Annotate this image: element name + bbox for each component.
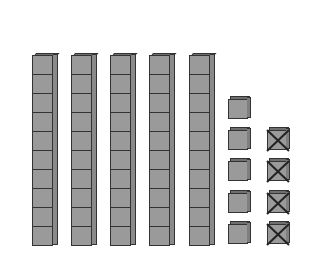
rod-unit-cube — [110, 131, 131, 151]
rod-unit-cube — [189, 169, 210, 189]
rod-unit-cube — [110, 207, 131, 227]
rod-unit-cube — [71, 131, 92, 151]
rod-unit-cube — [189, 131, 210, 151]
rod-unit-cube — [71, 169, 92, 189]
rod-unit-cube — [71, 150, 92, 170]
crossed-out-ones-cube — [267, 190, 287, 210]
rod-unit-cube — [110, 169, 131, 189]
tens-rod — [189, 56, 211, 246]
rod-unit-cube — [71, 226, 92, 246]
rod-unit-cube — [71, 188, 92, 208]
cube-side-face — [247, 159, 251, 180]
rod-unit-cube — [71, 93, 92, 113]
rod-unit-cube — [149, 131, 170, 151]
cube-front-face — [228, 161, 248, 181]
cube-front-face — [228, 193, 248, 213]
rod-unit-cube — [189, 93, 210, 113]
rod-unit-cube — [32, 150, 53, 170]
rod-unit-cube — [110, 112, 131, 132]
tens-rod — [32, 56, 54, 246]
tens-rod — [110, 56, 132, 246]
rod-unit-cube — [189, 150, 210, 170]
rod-unit-cube — [71, 55, 92, 75]
x-mark-icon — [265, 159, 291, 183]
cube-front-face — [228, 99, 248, 119]
rod-unit-cube — [110, 55, 131, 75]
crossed-out-ones-cube — [267, 127, 287, 147]
crossed-out-ones-cube — [267, 158, 287, 178]
cube-side-face — [247, 128, 251, 149]
rod-unit-cube — [110, 74, 131, 94]
rod-unit-cube — [110, 150, 131, 170]
rod-unit-cube — [149, 169, 170, 189]
rod-side-face — [53, 54, 58, 245]
rod-unit-cube — [189, 55, 210, 75]
rod-unit-cube — [71, 207, 92, 227]
rod-unit-cube — [149, 112, 170, 132]
rod-unit-cube — [149, 55, 170, 75]
rod-unit-cube — [110, 226, 131, 246]
x-mark-icon — [265, 128, 291, 152]
rod-unit-cube — [149, 226, 170, 246]
rod-unit-cube — [189, 188, 210, 208]
rod-unit-cube — [189, 207, 210, 227]
rod-unit-cube — [149, 93, 170, 113]
cube-side-face — [247, 97, 251, 118]
rod-unit-cube — [149, 188, 170, 208]
x-mark-icon — [265, 191, 291, 215]
rod-unit-cube — [32, 112, 53, 132]
tens-rod — [149, 56, 171, 246]
rod-unit-cube — [189, 112, 210, 132]
rod-unit-cube — [71, 112, 92, 132]
rod-unit-cube — [189, 74, 210, 94]
cube-front-face — [228, 130, 248, 150]
rod-unit-cube — [32, 188, 53, 208]
tens-rod — [71, 56, 93, 246]
rod-unit-cube — [110, 188, 131, 208]
rod-unit-cube — [149, 74, 170, 94]
rod-side-face — [92, 54, 97, 245]
rod-side-face — [170, 54, 175, 245]
rod-unit-cube — [32, 74, 53, 94]
rod-unit-cube — [32, 207, 53, 227]
ones-cube — [228, 221, 248, 241]
rod-unit-cube — [149, 207, 170, 227]
rod-unit-cube — [32, 226, 53, 246]
rod-unit-cube — [32, 169, 53, 189]
ones-cube — [228, 96, 248, 116]
rod-unit-cube — [189, 226, 210, 246]
rod-unit-cube — [32, 55, 53, 75]
x-mark-icon — [265, 222, 291, 246]
rod-unit-cube — [110, 93, 131, 113]
rod-unit-cube — [71, 74, 92, 94]
crossed-out-ones-cube — [267, 221, 287, 241]
ones-cube — [228, 158, 248, 178]
rod-unit-cube — [149, 150, 170, 170]
cube-front-face — [228, 224, 248, 244]
rod-unit-cube — [32, 131, 53, 151]
rod-unit-cube — [32, 93, 53, 113]
cube-side-face — [247, 222, 251, 243]
ones-cube — [228, 190, 248, 210]
rod-side-face — [210, 54, 215, 245]
cube-side-face — [247, 191, 251, 212]
rod-side-face — [131, 54, 136, 245]
ones-cube — [228, 127, 248, 147]
